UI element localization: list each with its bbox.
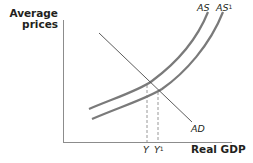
y1-superscript: 1 [160,145,164,152]
y1-label-text: Y [154,144,160,155]
ad-label: AD [191,124,205,134]
as1-curve [92,12,223,119]
as-label: AS [197,3,210,13]
x-axis-label: Real GDP [191,144,246,155]
y-axis-label: Average prices [0,8,58,30]
y-label-text: Y [143,144,149,155]
as-curve [89,12,208,109]
as1-label: AS1 [216,3,232,13]
as1-superscript: 1 [229,3,233,10]
as-label-text: AS [197,2,210,13]
ad-label-text: AD [191,123,205,134]
y-label: Y [143,145,149,155]
y1-label: Y1 [154,145,164,155]
as1-label-text: AS [216,2,229,13]
